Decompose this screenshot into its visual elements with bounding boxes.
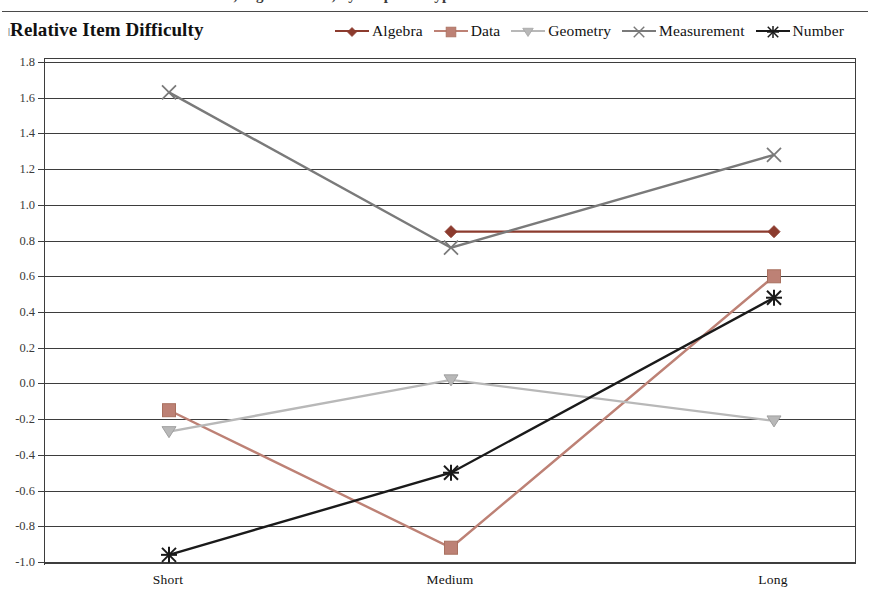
legend-marker-triangle-icon xyxy=(522,26,534,38)
data-point-marker-square xyxy=(163,404,176,417)
y-axis-tick-label: 0.8 xyxy=(19,233,35,248)
y-axis-tick xyxy=(38,526,45,527)
x-axis-labels: ShortMediumLong xyxy=(44,572,856,594)
data-point-marker-triangle xyxy=(523,28,534,36)
y-axis-tick xyxy=(38,241,45,242)
y-axis-tick-label: 0.2 xyxy=(19,340,35,355)
y-axis-tick xyxy=(38,312,45,313)
data-point-marker-square xyxy=(445,541,458,554)
y-axis-tick xyxy=(38,419,45,420)
y-axis-tick xyxy=(38,562,45,563)
data-point-marker-diamond xyxy=(445,226,457,238)
y-axis-tick xyxy=(38,276,45,277)
y-axis-tick-label: 1.0 xyxy=(19,197,35,212)
y-axis-tick-label: 1.8 xyxy=(19,55,35,70)
legend-swatch-square-icon xyxy=(434,24,468,38)
y-axis-tick-label: -1.0 xyxy=(15,555,35,570)
legend-swatch-diamond-icon xyxy=(335,24,369,38)
series-line-measurement xyxy=(169,92,774,247)
legend-marker-x-icon xyxy=(633,26,645,38)
data-point-marker-asterisk xyxy=(443,465,459,481)
data-point-marker-x xyxy=(444,241,458,255)
legend-marker-asterisk-icon xyxy=(767,26,779,38)
series-line-geometry xyxy=(169,380,774,432)
data-point-marker-asterisk xyxy=(767,26,779,38)
horizontal-rule xyxy=(2,11,868,12)
y-axis-tick-label: 0.4 xyxy=(19,305,35,320)
legend-label: Measurement xyxy=(659,22,744,40)
y-axis-tick xyxy=(38,383,45,384)
y-axis-tick-label: 1.6 xyxy=(19,90,35,105)
data-point-marker-triangle xyxy=(162,427,176,438)
cropped-caption-sliver: Mathematics, Eighth Grade, by Response T… xyxy=(0,0,871,10)
legend-label: Data xyxy=(471,22,501,40)
data-point-marker-x xyxy=(767,148,781,162)
x-axis-tick-label: Short xyxy=(153,572,183,588)
y-axis-tick-label: -0.4 xyxy=(15,447,35,462)
legend-label: Number xyxy=(793,22,844,40)
y-axis-tick-label: 1.4 xyxy=(19,126,35,141)
page-title: |Relative Item Difficulty xyxy=(8,19,204,41)
legend-swatch-x-icon xyxy=(622,24,656,38)
y-axis-tick-label: -0.8 xyxy=(15,519,35,534)
y-axis-tick xyxy=(38,348,45,349)
y-axis-tick xyxy=(38,62,45,63)
data-point-marker-x xyxy=(162,85,176,99)
y-axis-tick-label: -0.6 xyxy=(15,483,35,498)
legend-marker-diamond-icon xyxy=(346,26,358,38)
legend-swatch-triangle-icon xyxy=(511,24,545,38)
legend-marker-square-icon xyxy=(445,26,457,38)
chart-header: |Relative Item Difficulty AlgebraDataGeo… xyxy=(0,16,871,52)
y-axis-tick xyxy=(38,455,45,456)
x-axis-tick-label: Medium xyxy=(427,572,474,588)
legend-item-algebra[interactable]: Algebra xyxy=(335,22,423,40)
legend-label: Algebra xyxy=(372,22,423,40)
y-axis-tick-label: 0.6 xyxy=(19,269,35,284)
y-axis-tick xyxy=(38,491,45,492)
legend-label: Geometry xyxy=(548,22,611,40)
legend-item-data[interactable]: Data xyxy=(434,22,501,40)
y-axis-tick-label: 0.0 xyxy=(19,376,35,391)
data-point-marker-asterisk xyxy=(766,290,782,306)
cropped-caption-text: Mathematics, Eighth Grade, by Response T… xyxy=(148,0,457,4)
data-point-marker-diamond xyxy=(348,28,357,37)
legend-item-measurement[interactable]: Measurement xyxy=(622,22,744,40)
y-axis-tick xyxy=(38,169,45,170)
legend-swatch-asterisk-icon xyxy=(756,24,790,38)
data-point-marker-square xyxy=(446,27,456,37)
y-axis-tick xyxy=(38,133,45,134)
y-axis-tick xyxy=(38,98,45,99)
data-point-marker-x xyxy=(634,27,645,38)
data-point-marker-square xyxy=(768,270,781,283)
legend-item-geometry[interactable]: Geometry xyxy=(511,22,611,40)
y-axis-tick-label: -0.2 xyxy=(15,412,35,427)
series-layer xyxy=(45,59,857,565)
legend-item-number[interactable]: Number xyxy=(756,22,844,40)
data-point-marker-diamond xyxy=(768,226,780,238)
chart-title-text: Relative Item Difficulty xyxy=(10,19,203,40)
series-line-data xyxy=(169,276,774,547)
y-axis-tick xyxy=(38,205,45,206)
x-axis-tick-label: Long xyxy=(758,572,787,588)
y-axis-tick-label: 1.2 xyxy=(19,162,35,177)
plot-area: 1.81.61.41.21.00.80.60.40.20.0-0.2-0.4-0… xyxy=(44,58,856,564)
chart-legend: AlgebraDataGeometryMeasurementNumber xyxy=(335,22,844,40)
data-point-marker-asterisk xyxy=(161,547,177,563)
series-line-number xyxy=(169,298,774,555)
